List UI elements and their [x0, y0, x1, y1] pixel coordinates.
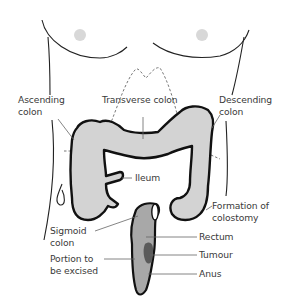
label-sigmoid-colon: Sigmoid colon: [50, 225, 86, 249]
left-hand: [57, 184, 64, 205]
right-nipple: [196, 29, 208, 41]
label-portion-to-be-excised: Portion to be excised: [50, 253, 98, 277]
stoma-opening: [152, 204, 158, 220]
label-formation-of-colostomy: Formation of colostomy: [212, 200, 269, 224]
label-descending-colon: Descending colon: [219, 94, 272, 118]
colon-diagram: [0, 0, 286, 303]
label-tumour: Tumour: [199, 249, 233, 261]
left-body-side: [44, 37, 54, 240]
ascending-leader: [58, 119, 74, 140]
label-transverse-colon: Transverse colon: [102, 94, 178, 106]
left-nipple: [74, 29, 86, 41]
label-ascending-colon: Ascending colon: [18, 94, 65, 118]
left-chest-curve: [42, 20, 127, 58]
label-rectum: Rectum: [199, 231, 233, 243]
colon-shape: [71, 106, 214, 220]
label-ileum: Ileum: [135, 172, 160, 184]
label-anus: Anus: [199, 268, 221, 280]
